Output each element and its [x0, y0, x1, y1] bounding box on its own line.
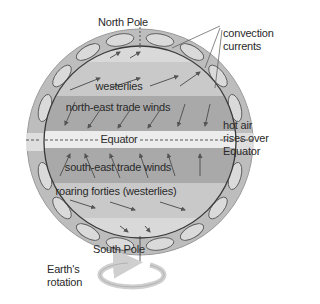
- earths-rotation-label-2: rotation: [47, 276, 82, 288]
- hot-air-label-2: rises over: [223, 132, 269, 144]
- hot-air-label-3: Equator: [223, 145, 260, 157]
- north-pole-label: North Pole: [98, 16, 148, 28]
- convection-currents-label-1: convection: [223, 27, 274, 39]
- hot-air-label-1: hot air: [223, 119, 252, 131]
- convection-currents-label-2: currents: [223, 40, 261, 52]
- south-east-trade-winds-label: south-east trade winds: [65, 161, 171, 173]
- equator-label: Equator: [99, 133, 138, 145]
- roaring-forties-label: roaring forties (westerlies): [56, 185, 177, 197]
- south-pole-label: South Pole: [93, 243, 145, 255]
- north-east-trade-winds-label: north-east trade winds: [66, 101, 170, 113]
- rotation-arrow: [100, 263, 164, 287]
- earths-rotation-label-1: Earth's: [47, 263, 80, 275]
- westerlies-label: westerlies: [96, 80, 143, 92]
